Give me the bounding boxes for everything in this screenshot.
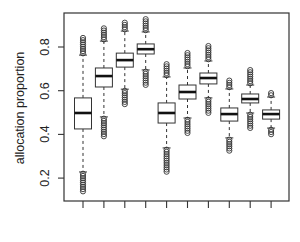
y-axis-ticks — [58, 47, 64, 178]
box-6 — [179, 50, 196, 135]
box-series — [75, 17, 280, 194]
box-9 — [242, 67, 259, 130]
x-axis-ticks — [83, 201, 271, 208]
y-axis-label: allocation proportion — [13, 52, 27, 165]
box-8 — [221, 78, 238, 153]
box-1 — [75, 35, 92, 194]
box-3 — [116, 20, 133, 107]
box-4 — [137, 17, 154, 88]
box-10 — [263, 90, 280, 136]
boxplot-chart — [0, 0, 300, 242]
box-7 — [200, 43, 217, 115]
iqr-box — [95, 68, 112, 87]
box-5 — [158, 62, 175, 175]
y-tick-label: 0.6 — [38, 82, 52, 99]
box-2 — [95, 26, 112, 139]
y-tick-label: 0.2 — [38, 169, 52, 186]
y-tick-label: 0.8 — [38, 38, 52, 55]
plot-frame — [64, 13, 289, 201]
y-tick-label: 0.4 — [38, 126, 52, 143]
